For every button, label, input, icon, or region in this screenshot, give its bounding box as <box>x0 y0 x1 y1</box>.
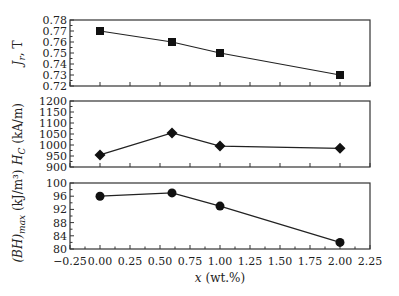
chart-svg: 0.720.730.740.750.760.770.78Jr, T9009501… <box>0 0 399 296</box>
x-axis-label: x (wt.%) <box>195 271 245 285</box>
circle-marker <box>168 188 177 197</box>
x-tick-label: 1.50 <box>268 255 293 268</box>
diamond-marker <box>167 127 178 138</box>
y-tick-label: 96 <box>53 190 67 203</box>
x-tick-label: 1.00 <box>208 255 233 268</box>
series-line <box>100 193 340 243</box>
x-tick-label: 1.25 <box>238 255 263 268</box>
x-tick-label: 0.25 <box>118 255 143 268</box>
x-tick-label: −0.25 <box>53 255 87 268</box>
diamond-marker <box>335 143 346 154</box>
x-tick-label: 0.00 <box>88 255 113 268</box>
x-tick-label: 2.25 <box>358 255 383 268</box>
x-tick-label: 0.50 <box>148 255 173 268</box>
y-tick-label: 100 <box>46 177 67 190</box>
square-marker <box>216 49 224 57</box>
circle-marker <box>216 202 225 211</box>
y-axis-label: HC (kA/m) <box>11 103 27 166</box>
panel-frame <box>70 101 370 167</box>
y-tick-label: 1200 <box>39 95 67 108</box>
panel-frame <box>70 183 370 249</box>
y-tick-label: 88 <box>53 217 67 230</box>
y-axis-label: (BH)max (kJ/m³) <box>11 169 27 262</box>
y-tick-label: 84 <box>53 230 67 243</box>
square-marker <box>168 38 176 46</box>
y-axis-label: Jr, T <box>11 41 27 69</box>
y-tick-label: 92 <box>53 203 67 216</box>
circle-marker <box>96 192 105 201</box>
square-marker <box>336 71 344 79</box>
x-tick-label: 2.00 <box>328 255 353 268</box>
x-tick-label: 0.75 <box>178 255 203 268</box>
x-tick-label: 1.75 <box>298 255 323 268</box>
chart-figure: 0.720.730.740.750.760.770.78Jr, T9009501… <box>0 0 399 296</box>
diamond-marker <box>215 141 226 152</box>
y-tick-label: 0.78 <box>43 14 68 27</box>
circle-marker <box>336 238 345 247</box>
diamond-marker <box>95 149 106 160</box>
square-marker <box>96 27 104 35</box>
